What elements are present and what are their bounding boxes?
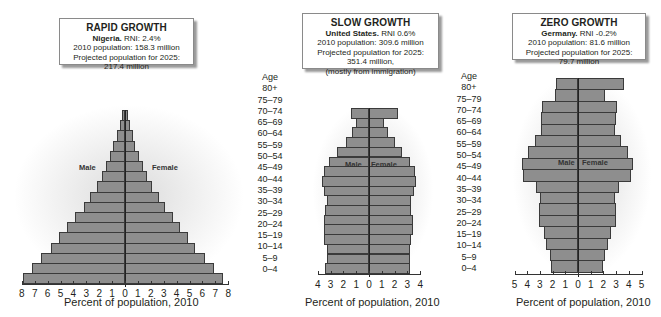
x-tick [164, 281, 165, 285]
population-2010: 2010 population: 309.6 million [307, 38, 434, 47]
x-tick-label: 4 [414, 279, 426, 290]
slow-growth-title: SLOW GROWTH [307, 17, 434, 29]
x-tick-label: 0 [119, 288, 131, 299]
x-tick [553, 271, 554, 275]
male-bar [325, 263, 369, 274]
x-tick [356, 271, 357, 275]
male-label: Male [79, 163, 96, 172]
rapid-growth-title: RAPID GROWTH [64, 22, 189, 34]
x-tick-label: 5 [636, 279, 648, 290]
zero-growth-title: ZERO GROWTH [517, 17, 641, 29]
rni-text: RNI 0.6% [379, 29, 415, 38]
zero-growth-infobox: ZERO GROWTH Germany. RNI -0.2% 2010 popu… [512, 13, 646, 60]
x-tick-label: 2 [547, 279, 559, 290]
x-tick [591, 271, 592, 275]
x-tick [73, 281, 74, 285]
x-tick [395, 271, 396, 275]
x-tick [22, 281, 23, 285]
country-name: Nigeria. [92, 34, 121, 43]
x-tick-label: 7 [209, 288, 221, 299]
x-tick-label: 2 [145, 288, 157, 299]
age-labels-right: Age 80+ 75–79 70–74 65–69 60–64 55–59 50… [452, 71, 486, 274]
x-tick [642, 271, 643, 275]
x-tick-label: 5 [55, 288, 67, 299]
age-labels-left: Age 80+ 75–79 70–74 65–69 60–64 55–59 50… [253, 72, 287, 275]
female-label: Female [152, 163, 178, 172]
x-tick [407, 271, 408, 275]
x-tick [603, 271, 604, 275]
immigration-note: (mostly from immigration) [307, 67, 434, 76]
x-axis-title: Percent of population, 2010 [516, 296, 651, 308]
x-tick [86, 281, 87, 285]
x-tick [99, 281, 100, 285]
projected-2025: Projected population for 2025: 351.4 mil… [307, 48, 434, 67]
x-tick [331, 271, 332, 275]
x-tick [48, 281, 49, 285]
x-tick-label: 4 [312, 279, 324, 290]
x-tick-label: 0 [572, 279, 584, 290]
slow-growth-infobox: SLOW GROWTH United States. RNI 0.6% 2010… [302, 13, 439, 69]
x-tick [151, 281, 152, 285]
x-tick-label: 3 [401, 279, 413, 290]
x-tick [540, 271, 541, 275]
x-tick [527, 271, 528, 275]
x-tick-label: 1 [376, 279, 388, 290]
population-2010: 2010 population: 158.3 million [64, 43, 189, 52]
projected-2025: Projected population for 2025: 79.7 mill… [517, 48, 641, 67]
female-bar [369, 263, 410, 274]
x-tick [578, 271, 579, 275]
x-tick-label: 5 [509, 279, 521, 290]
x-tick-label: 3 [158, 288, 170, 299]
age-header: Age [452, 71, 486, 82]
x-tick-label: 1 [350, 279, 362, 290]
x-tick [112, 281, 113, 285]
population-2010: 2010 population: 81.6 million [517, 38, 641, 47]
x-tick-label: 8 [16, 288, 28, 299]
x-tick-label: 6 [196, 288, 208, 299]
female-label: Female [371, 160, 397, 169]
x-tick-label: 8 [222, 288, 234, 299]
projected-2025: Projected population for 2025: 217.4 mil… [64, 53, 189, 72]
x-tick [190, 281, 191, 285]
x-tick-label: 3 [534, 279, 546, 290]
x-tick-label: 2 [337, 279, 349, 290]
x-tick-label: 2 [93, 288, 105, 299]
female-label: Female [582, 158, 608, 167]
x-tick [61, 281, 62, 285]
x-tick-label: 3 [610, 279, 622, 290]
x-tick-label: 4 [521, 279, 533, 290]
x-tick [35, 281, 36, 285]
x-tick [515, 271, 516, 275]
country-name: United States. [326, 29, 379, 38]
country-name: Germany. [541, 29, 577, 38]
x-tick-label: 7 [29, 288, 41, 299]
x-tick [202, 281, 203, 285]
x-tick-label: 3 [325, 279, 337, 290]
x-tick-label: 4 [623, 279, 635, 290]
x-tick-label: 2 [389, 279, 401, 290]
x-tick-label: 2 [597, 279, 609, 290]
x-tick-label: 0 [363, 279, 375, 290]
x-tick [382, 271, 383, 275]
x-tick [420, 271, 421, 275]
x-tick-label: 4 [67, 288, 79, 299]
x-tick-label: 5 [184, 288, 196, 299]
male-label: Male [558, 158, 575, 167]
center-axis [125, 110, 126, 287]
x-tick [177, 281, 178, 285]
x-tick-label: 4 [171, 288, 183, 299]
male-label: Male [345, 160, 362, 169]
x-tick-label: 1 [559, 279, 571, 290]
x-tick [629, 271, 630, 275]
x-tick [369, 271, 370, 275]
female-bar [125, 273, 223, 284]
x-tick [565, 271, 566, 275]
x-tick [138, 281, 139, 285]
x-axis-title: Percent of population, 2010 [305, 296, 440, 308]
x-tick [343, 271, 344, 275]
x-tick-label: 1 [106, 288, 118, 299]
age-header: Age [253, 72, 287, 83]
x-tick-label: 1 [132, 288, 144, 299]
rapid-growth-infobox: RAPID GROWTH Nigeria. RNI: 2.4% 2010 pop… [59, 18, 194, 65]
x-tick [318, 271, 319, 275]
